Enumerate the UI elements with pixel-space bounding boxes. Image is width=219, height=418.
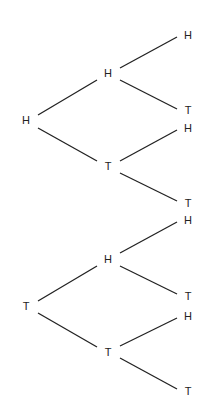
- tree-node-label: T: [185, 386, 192, 397]
- tree-node-label: H: [104, 254, 112, 265]
- tree-node-label: H: [184, 123, 192, 134]
- tree-node-label: T: [23, 301, 30, 312]
- tree-node-label: T: [185, 198, 192, 209]
- tree-node-label: H: [184, 30, 192, 41]
- tree-node-label: T: [105, 161, 112, 172]
- tree-edge: [120, 80, 177, 109]
- tree-node-label: T: [185, 105, 192, 116]
- tree-edge: [120, 358, 177, 389]
- tree-edge: [120, 130, 177, 161]
- tree-node-label: H: [22, 115, 30, 126]
- tree-edge: [120, 37, 177, 68]
- tree-edge: [38, 80, 97, 115]
- tree-edge: [120, 222, 177, 253]
- tree-edge: [38, 266, 97, 301]
- tree-node-label: H: [104, 68, 112, 79]
- tree-edge: [120, 318, 177, 346]
- tree-node-label: T: [105, 347, 112, 358]
- tree-edge: [120, 266, 177, 294]
- tree-node-label: T: [185, 291, 192, 302]
- tree-node-label: H: [184, 311, 192, 322]
- tree-edge: [38, 313, 97, 347]
- tree-edge: [38, 128, 97, 161]
- tree-node-label: H: [184, 215, 192, 226]
- tree-edge: [120, 173, 177, 201]
